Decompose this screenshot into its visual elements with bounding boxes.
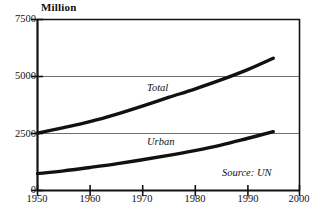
plot-area	[0, 0, 317, 217]
source-note: Source: UN	[222, 167, 271, 178]
axis-frame	[37, 19, 300, 191]
total-series-annotation: Total	[147, 82, 168, 93]
population-chart-figure: Million 7500 5000 2500 0 1950 1960 1970 …	[0, 0, 317, 217]
series-line-total	[38, 58, 274, 133]
urban-series-annotation: Urban	[147, 136, 174, 147]
